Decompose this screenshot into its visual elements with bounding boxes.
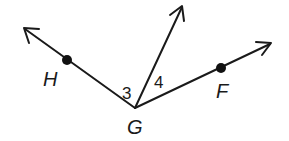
angle-4-label: 4 xyxy=(154,73,163,92)
ray-g-up xyxy=(135,6,184,108)
point-f-dot xyxy=(216,63,226,73)
label-g: G xyxy=(127,116,143,138)
angle-3-label: 3 xyxy=(122,84,131,103)
point-h-dot xyxy=(62,55,72,65)
ray-g-up-line xyxy=(135,7,182,108)
label-f: F xyxy=(216,80,230,102)
ray-gh-line xyxy=(25,29,135,108)
geometry-diagram: H 3 4 G F xyxy=(0,0,289,141)
ray-gh xyxy=(24,28,135,108)
label-h: H xyxy=(43,68,58,90)
